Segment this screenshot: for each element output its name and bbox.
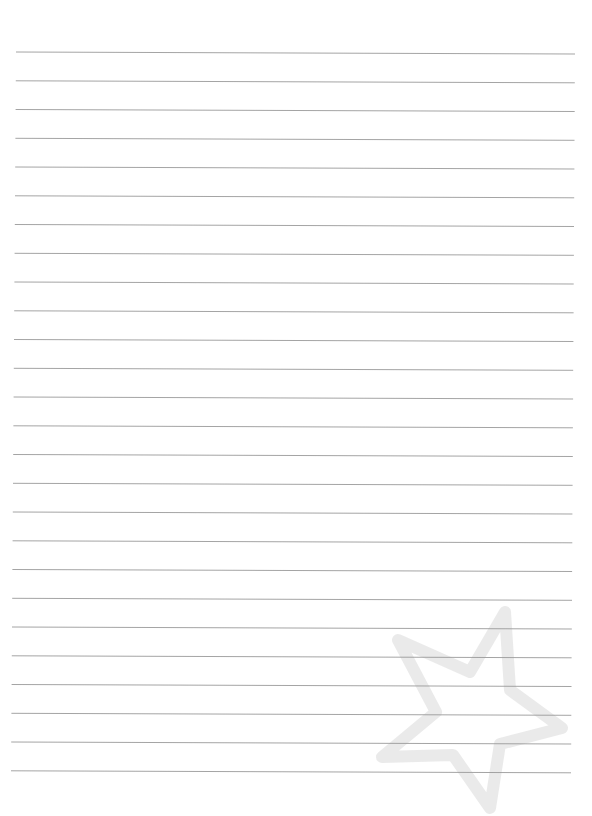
ruled-line	[16, 110, 575, 112]
ruled-line	[14, 311, 573, 313]
ruled-line	[12, 627, 572, 629]
ruled-line	[12, 685, 572, 687]
ruled-lines	[0, 0, 592, 816]
ruled-line	[15, 167, 574, 169]
ruled-line	[13, 426, 573, 428]
ruled-line	[15, 253, 574, 255]
ruled-line	[16, 52, 575, 54]
ruled-line	[15, 138, 574, 140]
ruled-line	[11, 713, 571, 715]
ruled-line	[15, 225, 574, 227]
ruled-line	[15, 196, 574, 198]
ruled-line	[13, 541, 573, 543]
ruled-line	[14, 368, 573, 370]
ruled-line	[14, 282, 573, 284]
ruled-line	[14, 397, 574, 399]
ruled-line	[11, 742, 571, 744]
ruled-line	[12, 570, 572, 572]
ruled-line	[12, 598, 572, 600]
ruled-line	[14, 340, 573, 342]
ruled-line	[12, 656, 572, 658]
ruled-line	[13, 483, 573, 485]
ruled-line	[13, 455, 573, 457]
ruled-line	[13, 512, 573, 514]
ruled-line	[11, 771, 571, 773]
ruled-line	[16, 81, 575, 83]
lined-paper-page	[0, 0, 592, 816]
